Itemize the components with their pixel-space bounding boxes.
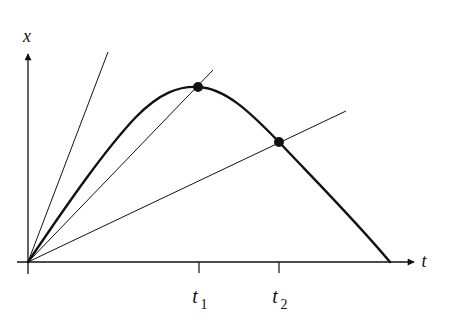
svg-text:2: 2 (281, 297, 288, 312)
svg-text:t: t (192, 285, 198, 307)
line-through-t1-point (28, 70, 213, 262)
t-axis-label: t (421, 251, 427, 271)
diagram-canvas: x t t 1 t 2 (0, 0, 451, 329)
x-axis-label: x (22, 26, 31, 46)
tick-label-t2: t 2 (272, 285, 287, 312)
point-max-t1 (193, 82, 203, 92)
svg-text:t: t (272, 285, 278, 307)
steep-line (28, 52, 108, 262)
line-through-t2-point (28, 111, 346, 262)
tick-label-t1: t 1 (192, 285, 207, 312)
point-intersection-t2 (274, 137, 284, 147)
svg-text:1: 1 (201, 297, 208, 312)
